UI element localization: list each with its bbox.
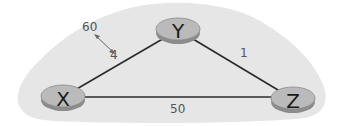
router-x-label: X	[56, 87, 70, 111]
link-x-z-cost: 50	[170, 102, 185, 116]
router-z-label: Z	[286, 89, 300, 113]
router-y: Y	[156, 18, 200, 44]
link-x-y-cost: 4	[110, 48, 118, 62]
router-z: Z	[271, 87, 315, 113]
link-y-z-cost: 1	[240, 46, 248, 60]
router-x: X	[41, 85, 85, 111]
new-cost-label: 60	[82, 20, 97, 34]
network-diagram: 60 4 1 50 Y X Z	[0, 0, 341, 126]
router-y-label: Y	[171, 19, 185, 43]
